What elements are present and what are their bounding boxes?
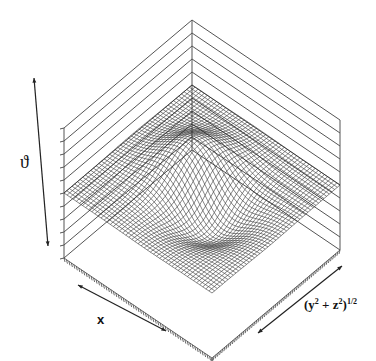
radial-label-part: (y — [304, 297, 315, 312]
surface-plot: ϑ x (y2 + z2)1/2 — [0, 0, 376, 361]
radial-label-sup: 1/2 — [347, 297, 357, 306]
radial-label-part: + z — [319, 297, 339, 312]
radial-axis-label: (y2 + z2)1/2 — [304, 297, 357, 313]
vertical-axis-label: ϑ — [20, 152, 29, 173]
x-axis-arrow-icon — [78, 285, 166, 331]
vertical-axis-arrow-icon — [32, 78, 49, 246]
x-axis-label: x — [97, 312, 104, 327]
surface-mesh — [64, 85, 340, 293]
